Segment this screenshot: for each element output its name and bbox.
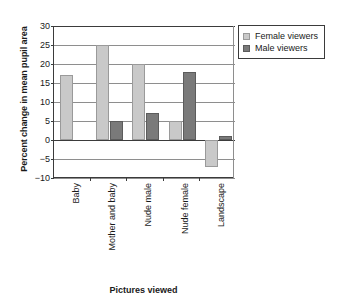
legend-swatch-icon (243, 33, 250, 40)
y-tick-label: 25 (40, 41, 50, 50)
bar-female (169, 121, 182, 140)
x-category-label: Nude female (181, 183, 190, 234)
legend-label: Female viewers (255, 32, 318, 41)
y-tick-label: 10 (40, 98, 50, 107)
gridline (54, 178, 235, 179)
bar-female (205, 140, 218, 167)
legend-item: Female viewers (243, 30, 318, 42)
bar-male (110, 121, 123, 140)
y-tick-label: 0 (45, 136, 50, 145)
x-tick-mark (163, 177, 164, 181)
bar-male (183, 72, 196, 140)
x-axis-title: Pictures viewed (53, 285, 234, 295)
x-category-label: Baby (72, 183, 81, 204)
bar-female (132, 64, 145, 140)
plot-area: 302520151050−5−10 (53, 26, 234, 178)
bar-male (146, 113, 159, 140)
x-category-label: Landscape (217, 183, 226, 227)
y-tick-label: 5 (45, 117, 50, 126)
y-tick-label: −5 (40, 155, 50, 164)
y-tick-mark (51, 178, 54, 179)
chart-legend: Female viewersMale viewers (238, 25, 325, 59)
y-tick-label: −10 (35, 174, 50, 183)
bar-chart-figure: Percent change in mean pupil area 302520… (0, 0, 346, 308)
bars-layer (54, 26, 235, 178)
x-tick-mark (90, 177, 91, 181)
legend-label: Male viewers (255, 44, 308, 53)
y-axis-title: Percent change in mean pupil area (19, 9, 29, 189)
legend-item: Male viewers (243, 42, 318, 54)
bar-female (96, 45, 109, 140)
y-tick-label: 15 (40, 79, 50, 88)
x-tick-mark (126, 177, 127, 181)
bar-male (219, 136, 232, 140)
y-tick-label: 30 (40, 22, 50, 31)
x-category-label: Nude male (144, 183, 153, 227)
x-tick-mark (199, 177, 200, 181)
legend-swatch-icon (243, 45, 250, 52)
bar-female (60, 75, 73, 140)
y-tick-label: 20 (40, 60, 50, 69)
x-category-label: Mother and baby (108, 183, 117, 251)
